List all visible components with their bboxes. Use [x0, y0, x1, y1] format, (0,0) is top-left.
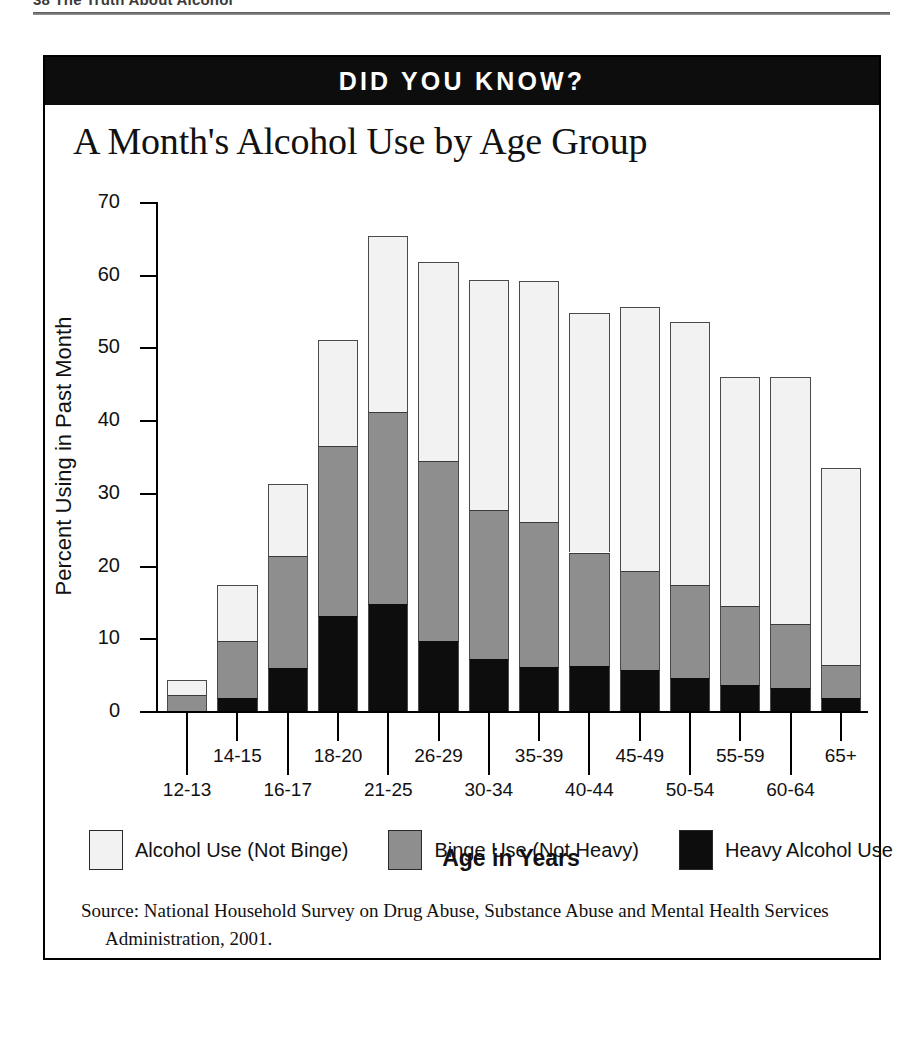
x-tick-50-54: [689, 711, 691, 775]
x-tick-18-20: [337, 711, 339, 741]
source-note: Source: National Household Survey on Dru…: [81, 897, 861, 952]
x-tick-40-44: [588, 711, 590, 775]
legend-swatch-white: [89, 830, 123, 870]
segment-binge-not-heavy: [519, 522, 559, 667]
x-tick-21-25: [387, 711, 389, 775]
segment-binge-not-heavy: [167, 695, 207, 711]
x-axis-label-45-49: 45-49: [615, 745, 664, 767]
x-tick-55-59: [739, 711, 741, 741]
panel-banner: DID YOU KNOW?: [45, 57, 879, 105]
source-line-2: Administration, 2001.: [81, 925, 861, 953]
x-axis-label-16-17: 16-17: [263, 779, 312, 801]
legend-swatch-gray: [388, 830, 422, 870]
segment-binge-not-heavy: [821, 665, 861, 698]
segment-heavy-alcohol-use: [217, 698, 257, 711]
legend-item-white: Alcohol Use (Not Binge): [89, 830, 348, 870]
did-you-know-panel: DID YOU KNOW? A Month's Alcohol Use by A…: [43, 55, 881, 960]
page-running-head: 38 The Truth About Alcohol: [0, 0, 923, 22]
segment-alcohol-not-binge: [217, 585, 257, 641]
running-head-rule: [33, 12, 890, 15]
bar-35-39: [519, 281, 559, 711]
segment-alcohol-not-binge: [368, 236, 408, 412]
segment-alcohol-not-binge: [569, 313, 609, 552]
x-axis-label-35-39: 35-39: [515, 745, 564, 767]
x-axis-label-21-25: 21-25: [364, 779, 413, 801]
y-tick-20: 20: [140, 566, 156, 568]
banner-title: DID YOU KNOW?: [339, 67, 586, 96]
chart-plot-area: Percent Using in Past Month 010203040506…: [156, 202, 866, 711]
segment-binge-not-heavy: [720, 606, 760, 685]
x-axis-label-40-44: 40-44: [565, 779, 614, 801]
bar-12-13: [167, 680, 207, 711]
segment-alcohol-not-binge: [268, 484, 308, 556]
segment-binge-not-heavy: [418, 461, 458, 641]
x-tick-30-34: [488, 711, 490, 775]
x-tick-16-17: [287, 711, 289, 775]
segment-binge-not-heavy: [268, 556, 308, 668]
x-axis-label-50-54: 50-54: [666, 779, 715, 801]
segment-alcohol-not-binge: [167, 680, 207, 695]
bar-30-34: [469, 280, 509, 711]
y-tick-label-70: 70: [98, 190, 120, 213]
y-tick-label-0: 0: [109, 699, 120, 722]
legend-label-white: Alcohol Use (Not Binge): [135, 839, 348, 862]
segment-heavy-alcohol-use: [268, 668, 308, 711]
segment-binge-not-heavy: [469, 510, 509, 659]
x-axis-label-55-59: 55-59: [716, 745, 765, 767]
y-tick-label-50: 50: [98, 335, 120, 358]
segment-heavy-alcohol-use: [620, 670, 660, 711]
bar-40-44: [569, 313, 609, 711]
segment-heavy-alcohol-use: [519, 667, 559, 711]
bar-16-17: [268, 484, 308, 711]
y-tick-label-10: 10: [98, 626, 120, 649]
segment-heavy-alcohol-use: [821, 698, 861, 711]
segment-alcohol-not-binge: [469, 280, 509, 511]
segment-binge-not-heavy: [318, 446, 358, 615]
y-tick-10: 10: [140, 638, 156, 640]
bar-21-25: [368, 236, 408, 711]
segment-heavy-alcohol-use: [318, 616, 358, 711]
x-axis-label-18-20: 18-20: [314, 745, 363, 767]
x-tick-14-15: [236, 711, 238, 741]
segment-binge-not-heavy: [569, 553, 609, 666]
y-tick-label-60: 60: [98, 263, 120, 286]
segment-binge-not-heavy: [368, 412, 408, 604]
y-tick-40: 40: [140, 420, 156, 422]
segment-alcohol-not-binge: [519, 281, 559, 522]
segment-alcohol-not-binge: [770, 377, 810, 625]
segment-alcohol-not-binge: [720, 377, 760, 606]
segment-binge-not-heavy: [620, 571, 660, 671]
y-axis-title: Percent Using in Past Month: [51, 317, 77, 596]
segment-heavy-alcohol-use: [770, 688, 810, 711]
segment-alcohol-not-binge: [670, 322, 710, 585]
y-tick-30: 30: [140, 493, 156, 495]
y-tick-70: 70: [140, 202, 156, 204]
x-axis-label-14-15: 14-15: [213, 745, 262, 767]
segment-binge-not-heavy: [217, 641, 257, 698]
segment-alcohol-not-binge: [821, 468, 861, 665]
x-axis-label-26-29: 26-29: [414, 745, 463, 767]
segment-heavy-alcohol-use: [720, 685, 760, 711]
legend-item-gray: Binge Use (Not Heavy): [388, 830, 639, 870]
bar-26-29: [418, 262, 458, 711]
y-tick-label-40: 40: [98, 408, 120, 431]
x-tick-65+: [840, 711, 842, 741]
bar-55-59: [720, 377, 760, 711]
segment-binge-not-heavy: [670, 585, 710, 678]
segment-heavy-alcohol-use: [469, 659, 509, 711]
x-axis-label-60-64: 60-64: [766, 779, 815, 801]
x-tick-45-49: [639, 711, 641, 741]
chart-legend: Alcohol Use (Not Binge)Binge Use (Not He…: [85, 827, 845, 873]
y-tick-50: 50: [140, 347, 156, 349]
source-line-1: Source: National Household Survey on Dru…: [81, 900, 829, 921]
legend-item-black: Heavy Alcohol Use: [679, 830, 893, 870]
bar-60-64: [770, 377, 810, 711]
segment-heavy-alcohol-use: [418, 641, 458, 711]
x-tick-60-64: [790, 711, 792, 775]
bar-14-15: [217, 585, 257, 711]
x-axis-label-12-13: 12-13: [163, 779, 212, 801]
bar-50-54: [670, 322, 710, 711]
segment-binge-not-heavy: [770, 624, 810, 688]
legend-swatch-black: [679, 830, 713, 870]
bar-series-group: [156, 202, 866, 711]
